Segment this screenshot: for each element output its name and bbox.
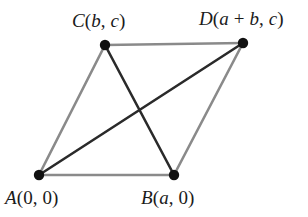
edge-c-a — [39, 45, 105, 175]
vertex-label-d-sep: , — [259, 8, 269, 29]
vertex-label-c-x: b — [91, 10, 101, 31]
vertex-dot-d — [238, 38, 248, 48]
vertex-label-d-x: a — [219, 8, 229, 29]
vertex-label-d-y: c — [269, 8, 278, 29]
vertex-label-d-x2: b — [249, 8, 259, 29]
vertex-label-c-close: ) — [119, 10, 125, 31]
vertex-label-a-sep: , — [33, 187, 43, 208]
vertex-label-b-close: ) — [188, 187, 194, 208]
edge-d-c — [105, 43, 243, 45]
vertex-dot-c — [100, 40, 110, 50]
vertex-label-b-point: B — [141, 187, 153, 208]
vertex-label-d: D(a + b, c) — [199, 9, 284, 28]
vertex-dot-a — [34, 170, 44, 180]
vertex-label-a-y: 0 — [42, 187, 52, 208]
vertex-label-b-y: 0 — [178, 187, 188, 208]
diagram-canvas — [0, 0, 308, 217]
diagonal-a-d — [39, 43, 243, 175]
vertex-label-b-x: a — [159, 187, 169, 208]
parallelogram-diagram: C(b, c) D(a + b, c) A(0, 0) B(a, 0) — [0, 0, 308, 217]
vertex-dot-b — [169, 170, 179, 180]
vertex-label-b: B(a, 0) — [141, 188, 195, 207]
vertex-label-a-x: 0 — [23, 187, 33, 208]
vertex-label-a-point: A — [5, 187, 17, 208]
edge-b-d — [174, 43, 243, 175]
vertex-label-d-point: D — [199, 8, 213, 29]
vertex-label-d-close: ) — [277, 8, 283, 29]
vertex-label-a-close: ) — [52, 187, 58, 208]
vertex-label-c-point: C — [72, 10, 85, 31]
vertex-label-d-plus: + — [229, 8, 250, 29]
diagonal-c-b — [105, 45, 174, 175]
vertex-label-a: A(0, 0) — [5, 188, 59, 207]
vertex-label-c-y: c — [111, 10, 120, 31]
vertex-label-c: C(b, c) — [72, 11, 126, 30]
vertex-label-b-sep: , — [169, 187, 179, 208]
vertex-label-c-sep: , — [101, 10, 111, 31]
